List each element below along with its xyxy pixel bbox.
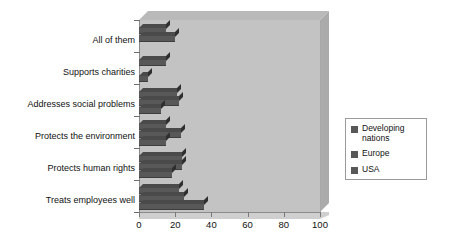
x-axis-tick <box>248 212 249 217</box>
bar <box>139 59 166 66</box>
x-axis-tick <box>139 212 140 217</box>
y-axis-tick <box>134 20 140 21</box>
x-axis-tick <box>284 212 285 217</box>
bar <box>139 139 166 146</box>
plot-area <box>139 11 334 220</box>
legend-label: Developing nations <box>362 124 422 143</box>
bar <box>139 171 172 178</box>
legend-swatch-icon <box>351 151 358 158</box>
x-axis-tick-label: 0 <box>136 219 141 230</box>
x-axis-tick <box>211 212 212 217</box>
category-label: Protects human rights <box>0 163 135 174</box>
chart-legend: Developing nations Europe USA <box>345 118 427 180</box>
y-axis-tick <box>134 116 140 117</box>
y-axis-tick <box>134 180 140 181</box>
legend-swatch-icon <box>351 126 358 133</box>
bar <box>139 107 161 114</box>
legend-item-usa[interactable]: USA <box>351 165 422 175</box>
category-label: Supports charities <box>0 67 135 78</box>
y-axis-tick <box>134 148 140 149</box>
x-axis-tick-label: 100 <box>312 219 328 230</box>
x-axis-tick-label: 20 <box>170 219 181 230</box>
x-axis-tick-label: 60 <box>242 219 253 230</box>
chart-root: All of them Supports charities Addresses… <box>0 0 452 251</box>
y-axis-tick <box>134 84 140 85</box>
category-label: All of them <box>0 35 135 46</box>
bar <box>139 35 175 42</box>
plot-top-bevel <box>139 11 329 20</box>
x-axis-tick-label: 80 <box>279 219 290 230</box>
x-axis-tick <box>320 212 321 217</box>
legend-item-europe[interactable]: Europe <box>351 149 422 159</box>
y-axis-category-labels: All of them Supports charities Addresses… <box>0 13 139 218</box>
legend-label: Europe <box>362 149 389 159</box>
bar-series-container <box>139 20 320 212</box>
bar <box>139 203 204 210</box>
x-axis-tick-labels: 020406080100 <box>139 219 339 233</box>
category-label: Protects the environment <box>0 131 135 142</box>
legend-item-developing-nations[interactable]: Developing nations <box>351 124 422 143</box>
bar <box>139 75 148 82</box>
plot-right-bevel <box>320 11 329 212</box>
category-label: Addresses social problems <box>0 99 135 110</box>
legend-label: USA <box>362 165 379 175</box>
x-axis-tick-label: 40 <box>206 219 217 230</box>
y-axis-tick <box>134 52 140 53</box>
x-axis-ticks <box>139 212 339 218</box>
legend-swatch-icon <box>351 167 358 174</box>
x-axis-tick <box>175 212 176 217</box>
category-label: Treats employees well <box>0 195 135 206</box>
